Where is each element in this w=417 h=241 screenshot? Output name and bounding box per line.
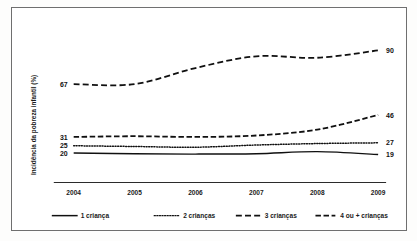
end-value-label-1: 19 bbox=[386, 151, 394, 158]
start-value-label-3: 67 bbox=[60, 81, 68, 88]
legend-label-4: 4 ou + crianças bbox=[340, 212, 388, 220]
end-value-label-4: 46 bbox=[386, 112, 394, 119]
x-tick-2004: 2004 bbox=[66, 189, 81, 196]
start-value-label-2: 25 bbox=[60, 142, 68, 149]
legend-item-1[interactable]: 1 criança bbox=[52, 212, 110, 220]
x-tick-2009: 2009 bbox=[371, 189, 386, 196]
legend-label-3: 3 crianças bbox=[265, 212, 297, 220]
x-axis-tick-labels: 200420052006200720082009 bbox=[66, 189, 385, 196]
x-tick-2007: 2007 bbox=[249, 189, 264, 196]
end-value-label-2: 27 bbox=[386, 139, 394, 146]
legend-item-4[interactable]: 4 ou + crianças bbox=[315, 212, 388, 220]
value-labels-layer: 2019252767903146 bbox=[60, 47, 394, 158]
legend-item-2[interactable]: 2 crianças bbox=[154, 212, 215, 220]
x-tick-2008: 2008 bbox=[310, 189, 325, 196]
start-value-label-4: 31 bbox=[60, 134, 68, 141]
series-line-3 bbox=[74, 50, 378, 85]
start-value-label-1: 20 bbox=[60, 150, 68, 157]
line-chart: Incidência da pobreza infantil (%) 20192… bbox=[12, 8, 406, 230]
end-value-label-3: 90 bbox=[386, 47, 394, 54]
series-line-2 bbox=[74, 143, 378, 147]
chart-legend: 1 criança2 crianças3 crianças4 ou + cria… bbox=[52, 212, 388, 220]
series-line-4 bbox=[74, 115, 378, 137]
y-axis-label: Incidência da pobreza infantil (%) bbox=[30, 75, 38, 175]
legend-label-2: 2 crianças bbox=[183, 212, 215, 220]
series-layer bbox=[74, 50, 378, 154]
legend-label-1: 1 criança bbox=[81, 212, 110, 220]
chart-figure: Incidência da pobreza infantil (%) 20192… bbox=[11, 7, 407, 231]
x-tick-2006: 2006 bbox=[188, 189, 203, 196]
legend-item-3[interactable]: 3 crianças bbox=[236, 212, 297, 220]
series-line-1 bbox=[74, 152, 378, 155]
x-tick-2005: 2005 bbox=[127, 189, 142, 196]
